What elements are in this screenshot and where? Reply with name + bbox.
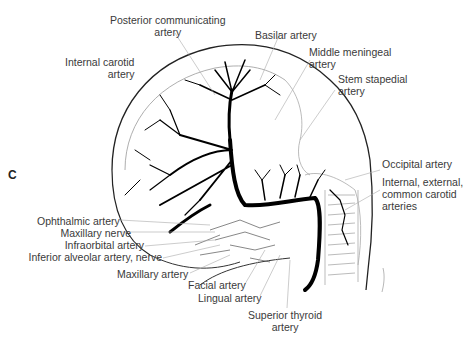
label-middle-meningeal-artery: Middle meningeal artery	[309, 46, 391, 70]
label-inferior-alveolar-artery-nerve: Inferior alveolar artery, nerve	[20, 251, 162, 263]
label-maxillary-nerve: Maxillary nerve	[30, 227, 131, 239]
label-maxillary-artery: Maxillary artery	[117, 268, 188, 280]
label-stem-stapedial-artery: Stem stapedial artery	[338, 73, 407, 97]
label-basilar-artery: Basilar artery	[255, 29, 317, 41]
label-ophthalmic-artery: Ophthalmic artery	[37, 215, 119, 227]
label-facial-artery: Facial artery	[188, 279, 246, 291]
label-superior-thyroid-artery: Superior thyroid artery	[248, 309, 322, 333]
anatomy-figure: C Posterior communicating artery Basilar…	[0, 0, 474, 343]
label-lingual-artery: Lingual artery	[198, 292, 262, 304]
label-posterior-communicating-artery: Posterior communicating artery	[110, 14, 226, 38]
label-internal-carotid-artery: Internal carotid artery	[65, 56, 134, 80]
panel-letter: C	[8, 168, 17, 182]
label-infraorbital-artery: Infraorbital artery	[30, 239, 144, 251]
label-occipital-artery: Occipital artery	[382, 158, 452, 170]
label-carotid-arteries: Internal, external, common carotid arter…	[382, 176, 463, 212]
